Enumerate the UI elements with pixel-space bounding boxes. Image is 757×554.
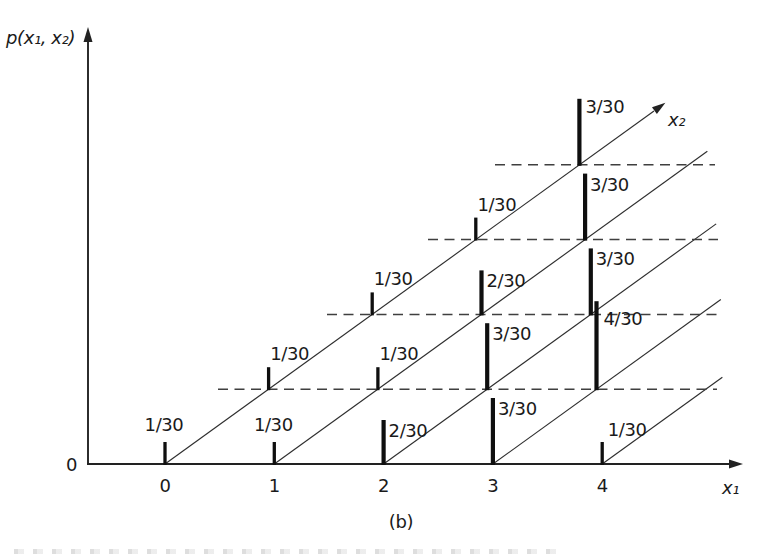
x1-tick-label: 1 — [269, 475, 280, 496]
pmf-value-label: 4/30 — [604, 308, 643, 329]
pmf-value-label: 1/30 — [270, 343, 309, 364]
pmf-value-label: 2/30 — [389, 420, 428, 441]
cutoff-text-remnant — [14, 549, 562, 554]
pmf-value-label: 1/30 — [374, 268, 413, 289]
pmf-value-label: 3/30 — [498, 398, 537, 419]
figure-caption: (b) — [389, 511, 413, 532]
origin-label: 0 — [66, 454, 77, 475]
pmf-figure-page: 012341/301/302/303/301/301/301/303/304/3… — [0, 0, 757, 554]
pmf-value-label: 1/30 — [254, 414, 293, 435]
pmf-value-label: 1/30 — [477, 194, 516, 215]
x2-axis-arrowhead — [652, 103, 665, 114]
pmf-value-label: 3/30 — [585, 96, 624, 117]
x1-axis-arrowhead — [729, 460, 743, 469]
x1-tick-label: 3 — [487, 475, 498, 496]
x1-axis-label: x₁ — [721, 477, 739, 498]
pmf-value-label: 3/30 — [596, 248, 635, 269]
pmf-value-label: 1/30 — [145, 414, 184, 435]
x2-axis-label: x₂ — [667, 109, 685, 130]
chart-geometry: 012341/301/302/303/301/301/301/303/304/3… — [84, 27, 744, 496]
pmf-value-label: 1/30 — [608, 419, 647, 440]
joint-pmf-stem-plot: 012341/301/302/303/301/301/301/303/304/3… — [0, 0, 757, 554]
x2-direction-gridline — [384, 224, 717, 464]
pmf-value-label: 1/30 — [379, 343, 418, 364]
pmf-value-label: 3/30 — [492, 323, 531, 344]
pmf-value-label: 2/30 — [487, 270, 526, 291]
p-axis-arrowhead — [84, 27, 93, 42]
p-axis-label: p(x₁, x₂) — [5, 27, 75, 48]
pmf-value-label: 3/30 — [590, 174, 629, 195]
x1-tick-label: 4 — [597, 475, 608, 496]
x1-tick-label: 0 — [159, 475, 170, 496]
x1-tick-label: 2 — [378, 475, 389, 496]
